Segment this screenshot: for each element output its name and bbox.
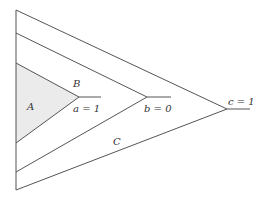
region-c-label: C [113,136,121,147]
node-c-label: c = 1 [228,96,255,107]
region-a-shading [16,63,79,143]
region-b-label: B [72,78,80,89]
region-a-label: A [26,101,34,112]
node-b-label: b = 0 [144,103,172,114]
node-a-label: a = 1 [73,103,100,114]
nested-triangles-diagram: A B C a = 1 b = 0 c = 1 [0,0,265,198]
